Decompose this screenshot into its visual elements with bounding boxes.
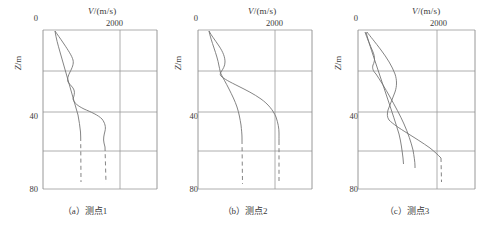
panel-c-grid — [358, 30, 475, 189]
panel-a-caption: （a）测点1 — [0, 204, 170, 217]
panel-b-grid — [198, 30, 312, 189]
panel-a: V/(m/s) 2000 Z/m 0 40 80 — [0, 0, 170, 234]
panel-c-curve-left — [366, 32, 404, 164]
panel-a-curve-right-dashed — [105, 147, 106, 183]
panel-c-caption: （c）测点3 — [320, 204, 494, 217]
panel-b-curve-right — [209, 31, 279, 141]
panel-b-caption: （b）测点2 — [160, 204, 330, 217]
panel-c-curve-right — [367, 32, 441, 158]
panel-b-plot — [160, 0, 330, 234]
panel-c-curves — [365, 32, 442, 182]
panel-a-curve-left — [55, 31, 81, 137]
panel-c-curve-right-dashed — [441, 158, 442, 182]
panel-b-curves — [209, 31, 279, 184]
panel-b: V/(m/s) 2000 Z/m 0 40 80 — [160, 0, 330, 234]
panel-b-curve-left-dashed — [242, 140, 243, 184]
panel-c: V/(m/s) 2000 Z/m 0 40 80 — [320, 0, 494, 234]
panel-a-plot — [0, 0, 170, 234]
panel-a-curves — [55, 31, 106, 183]
panel-c-plot — [320, 0, 494, 234]
velocity-depth-figure: V/(m/s) 2000 Z/m 0 40 80 — [0, 0, 494, 234]
